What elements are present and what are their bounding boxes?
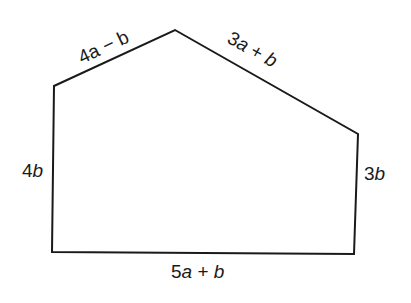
side-label-left: 4b	[22, 160, 43, 181]
side-label-upper-right: 3a + b	[224, 27, 281, 71]
pentagon-shape	[52, 30, 358, 254]
side-label-right: 3b	[364, 163, 385, 184]
pentagon-diagram: 4b 4a − b 3a + b 3b 5a + b	[0, 0, 411, 303]
side-label-upper-left: 4a − b	[75, 26, 132, 68]
side-label-bottom: 5a + b	[171, 261, 224, 282]
